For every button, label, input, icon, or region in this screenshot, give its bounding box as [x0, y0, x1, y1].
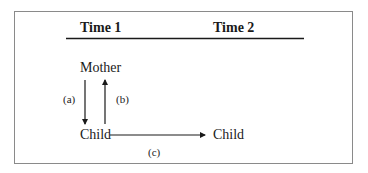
diagram-lines	[0, 0, 368, 173]
